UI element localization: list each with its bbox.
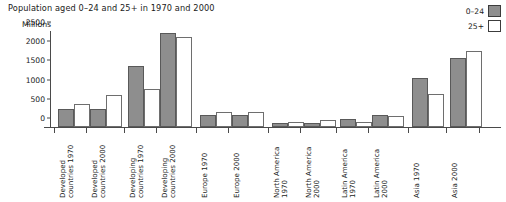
bar-young: [372, 115, 388, 127]
x-axis-label: Asia 2000: [451, 136, 459, 198]
bar-group: [372, 115, 404, 127]
bar-group: [128, 66, 160, 127]
y-axis-tick-mark: [47, 79, 51, 80]
bar-young: [200, 115, 216, 127]
x-axis-tick-mark: [124, 128, 125, 133]
bar-young: [90, 109, 106, 127]
bar-older: [428, 94, 444, 127]
bar-group: [90, 95, 122, 127]
x-axis-label: North America 2000: [305, 136, 321, 198]
bar-young: [304, 123, 320, 127]
x-axis-label: Europe 1970: [201, 136, 209, 198]
bar-group: [58, 104, 90, 127]
bar-young: [450, 58, 466, 127]
x-axis-label: Developed countries 1970: [59, 136, 75, 198]
bar-older: [176, 37, 192, 127]
y-axis-tick-mark: [47, 41, 51, 42]
y-axis-tick: 1000: [26, 75, 51, 84]
x-axis-tick-mark: [479, 128, 480, 133]
y-axis-tick-label: 500: [31, 94, 46, 103]
x-axis-label: Latin America 1970: [341, 136, 357, 198]
bar-older: [356, 122, 372, 127]
bar-older: [320, 120, 336, 127]
legend-swatch-young: [488, 5, 501, 17]
x-axis-label: Europe 2000: [233, 136, 241, 198]
y-axis-tick-mark: [47, 98, 51, 99]
chart-title: Population aged 0–24 and 25+ in 1970 and…: [8, 3, 215, 13]
x-axis-tick-mark: [156, 128, 157, 133]
bar-older: [288, 122, 304, 127]
legend-label-older: 25+: [468, 22, 484, 31]
x-axis-label: Asia 1970: [413, 136, 421, 198]
y-axis-tick-label: 2500: [26, 18, 45, 27]
bar-young: [340, 119, 356, 127]
y-axis-tick: 2500: [26, 18, 51, 27]
bar-group: [412, 78, 444, 127]
x-axis-line: [44, 127, 501, 128]
x-axis-label: Latin America 2000: [373, 136, 389, 198]
chart-figure: Population aged 0–24 and 25+ in 1970 and…: [0, 0, 506, 202]
bar-older: [216, 112, 232, 127]
chart-legend: 0–24 25+: [466, 5, 501, 32]
y-axis-tick: 500: [31, 94, 52, 103]
bar-older: [466, 51, 482, 127]
bar-group: [304, 120, 336, 127]
plot-area: 05001000150020002500: [51, 31, 501, 127]
bar-young: [412, 78, 428, 127]
bar-older: [106, 95, 122, 127]
legend-item-young: 0–24: [466, 5, 501, 17]
y-axis-tick: 0: [40, 114, 51, 123]
bar-group: [272, 122, 304, 127]
legend-label-young: 0–24: [466, 7, 484, 16]
bar-young: [232, 115, 248, 127]
bar-group: [160, 33, 192, 127]
y-axis-tick: 2000: [26, 37, 51, 46]
bar-young: [128, 66, 144, 127]
bar-group: [450, 51, 482, 127]
bar-group: [200, 112, 232, 127]
x-axis-tick-mark: [300, 128, 301, 133]
x-axis-tick-mark: [408, 128, 409, 133]
x-axis-tick-mark: [196, 128, 197, 133]
bar-group: [232, 112, 264, 127]
x-axis-tick-mark: [446, 128, 447, 133]
x-axis-tick-mark: [336, 128, 337, 133]
bar-young: [58, 109, 74, 127]
x-axis-label: Developed countries 2000: [91, 136, 107, 198]
y-axis-tick-label: 2000: [26, 37, 45, 46]
x-axis-label: Developing countries 1970: [129, 136, 145, 198]
x-axis-tick-mark: [268, 128, 269, 133]
y-axis-tick-mark: [47, 22, 51, 23]
bar-older: [74, 104, 90, 127]
bar-older: [144, 89, 160, 127]
bar-older: [388, 116, 404, 127]
x-axis-tick-mark: [228, 128, 229, 133]
y-axis-tick-label: 1000: [26, 75, 45, 84]
x-axis-label: Developing countries 2000: [161, 136, 177, 198]
y-axis-tick-label: 1500: [26, 56, 45, 65]
x-axis-tick-mark: [86, 128, 87, 133]
y-axis-tick-mark: [47, 118, 51, 119]
x-axis-tick-mark: [368, 128, 369, 133]
bar-group: [340, 119, 372, 127]
y-axis-tick-mark: [47, 60, 51, 61]
bar-older: [248, 112, 264, 127]
bar-young: [160, 33, 176, 127]
x-axis-tick-mark: [54, 128, 55, 133]
x-axis-label: North America 1970: [273, 136, 289, 198]
y-axis-tick-label: 0: [40, 114, 45, 123]
bar-young: [272, 123, 288, 127]
y-axis-tick: 1500: [26, 56, 51, 65]
